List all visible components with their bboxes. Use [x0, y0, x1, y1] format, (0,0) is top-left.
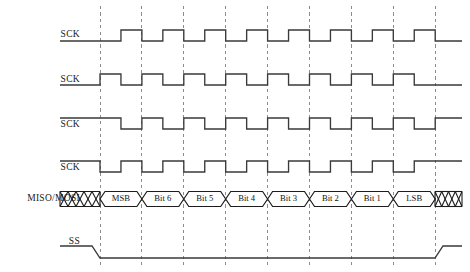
spi-timing-diagram: MSBBit 6Bit 5Bit 4Bit 3Bit 2Bit 1LSB SCK… — [0, 0, 470, 272]
data-cell-label-5: Bit 2 — [322, 193, 339, 203]
waveform-sck-mode-2 — [60, 161, 462, 172]
waveform-sck-mode-3 — [60, 118, 462, 129]
row-label-sck-mode-2: SCK — [61, 162, 80, 172]
row-label-group: SCKSCKSCKSCKMISO/MOSISS — [27, 29, 80, 246]
waveform-slave-select — [60, 246, 462, 258]
row-label-slave-select: SS — [69, 236, 80, 246]
data-cell-label-7: LSB — [406, 193, 422, 203]
gridline-group — [100, 6, 435, 266]
data-cell-label-1: Bit 6 — [154, 193, 172, 203]
data-cell-group: MSBBit 6Bit 5Bit 4Bit 3Bit 2Bit 1LSB — [60, 192, 462, 207]
data-cell-label-6: Bit 1 — [364, 193, 381, 203]
hatch-trailing-undefined — [435, 192, 462, 207]
data-cell-label-0: MSB — [112, 193, 130, 203]
waveform-canvas: MSBBit 6Bit 5Bit 4Bit 3Bit 2Bit 1LSB SCK… — [0, 0, 470, 272]
waveform-sck-mode-1 — [60, 30, 462, 41]
data-cell-label-3: Bit 4 — [238, 193, 256, 203]
row-label-sck-mode-3: SCK — [61, 119, 80, 129]
row-label-sck-mode-1: SCK — [61, 29, 80, 39]
row-label-sck-mode-0: SCK — [61, 74, 80, 84]
row-label-data-line: MISO/MOSI — [27, 193, 80, 203]
signal-group — [60, 30, 462, 258]
data-cell-label-4: Bit 3 — [280, 193, 297, 203]
data-cell-label-2: Bit 5 — [196, 193, 213, 203]
waveform-sck-mode-0 — [60, 74, 462, 85]
